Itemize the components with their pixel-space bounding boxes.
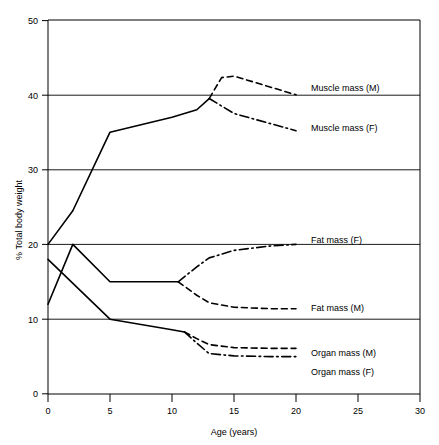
y-tick-label-20: 20 <box>28 240 38 250</box>
y-tick-label-10: 10 <box>28 315 38 325</box>
y-tick-label-0: 0 <box>33 389 38 399</box>
y-tick-label-50: 50 <box>28 16 38 26</box>
x-tick-label-25: 25 <box>353 406 363 416</box>
x-axis-title: Age (years) <box>211 427 258 437</box>
x-tick-label-30: 30 <box>415 406 425 416</box>
series-label-fat-mass-m: Fat mass (M) <box>311 303 364 313</box>
series-label-muscle-mass-m: Muscle mass (M) <box>311 83 380 93</box>
series-label-organ-mass-f: Organ mass (F) <box>311 367 374 377</box>
chart-background <box>0 0 439 445</box>
y-tick-label-40: 40 <box>28 91 38 101</box>
x-tick-label-20: 20 <box>291 406 301 416</box>
series-label-muscle-mass-f: Muscle mass (F) <box>311 123 378 133</box>
x-tick-label-0: 0 <box>45 406 50 416</box>
series-label-organ-mass-m: Organ mass (M) <box>311 348 376 358</box>
y-tick-label-30: 30 <box>28 165 38 175</box>
x-tick-label-10: 10 <box>167 406 177 416</box>
series-label-fat-mass-f: Fat mass (F) <box>311 235 362 245</box>
x-tick-label-15: 15 <box>229 406 239 416</box>
chart-container: 50 40 30 20 10 0 0 5 10 15 20 25 30 Age … <box>0 0 439 445</box>
x-tick-label-5: 5 <box>107 406 112 416</box>
y-axis-title: % Total body weight <box>14 180 24 260</box>
body-composition-line-chart: 50 40 30 20 10 0 0 5 10 15 20 25 30 Age … <box>0 0 439 445</box>
